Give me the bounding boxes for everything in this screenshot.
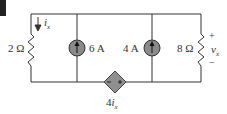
resistor-left-label: 2 Ω [8,43,24,54]
current-source-6a [69,40,85,56]
dependent-voltage-source [104,71,126,93]
current-label: ix [44,17,50,31]
minus-sign: − [209,58,215,68]
plus-sign: + [209,31,215,41]
resistor-right-label: 8 Ω [177,43,193,54]
current-arrow-icon [35,17,41,31]
corner-mark [0,0,6,16]
current-source-4a [144,40,160,56]
resistor-left [28,34,34,66]
dependent-source-label: 4ix [106,97,118,111]
resistor-right [198,34,204,66]
source-6a-label: 6 A [89,43,105,54]
source-4a-label: 4 A [123,43,139,54]
